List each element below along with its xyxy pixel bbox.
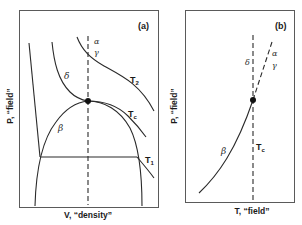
t1-label: T1 (145, 155, 155, 166)
left-boundary-line (29, 43, 40, 157)
tc-label-a: Tc (128, 109, 138, 120)
panel-a-frame (20, 11, 159, 208)
delta-label-b: δ (245, 58, 250, 67)
alpha-gamma-dashed-boundary (253, 42, 272, 100)
panel-a-tag: (a) (138, 21, 149, 31)
panel-b: (b) δ α γ β Tc T, “field” P, “field” (169, 11, 295, 217)
delta-curve (52, 42, 88, 101)
delta-label-a: δ (64, 71, 69, 81)
alpha-label-b: α (272, 49, 278, 58)
phase-diagram-figure: (a) α γ δ β T2 Tc T1 V, “density” P, “fi… (0, 0, 302, 225)
panel-a: (a) α γ δ β T2 Tc T1 V, “density” P, “fi… (5, 11, 159, 221)
tc-isotherm (88, 101, 146, 137)
critical-point-dot-b (250, 97, 256, 103)
panel-b-y-axis-label: P, “field” (169, 88, 179, 123)
panel-b-tag: (b) (275, 21, 287, 31)
gamma-label-b: γ (272, 61, 277, 70)
beta-label-a: β (57, 123, 63, 133)
t2-label: T2 (130, 75, 140, 86)
critical-point-dot (85, 98, 91, 104)
alpha-label-a: α (94, 37, 100, 46)
panel-a-x-axis-label: V, “density” (64, 210, 112, 220)
panel-b-x-axis-label: T, “field” (235, 206, 270, 216)
panel-a-y-axis-label: P, “field” (5, 88, 15, 123)
panel-b-frame (186, 11, 295, 203)
tc-label-b: Tc (256, 142, 266, 153)
beta-label-b: β (220, 146, 226, 156)
gamma-label-a: γ (94, 48, 99, 57)
